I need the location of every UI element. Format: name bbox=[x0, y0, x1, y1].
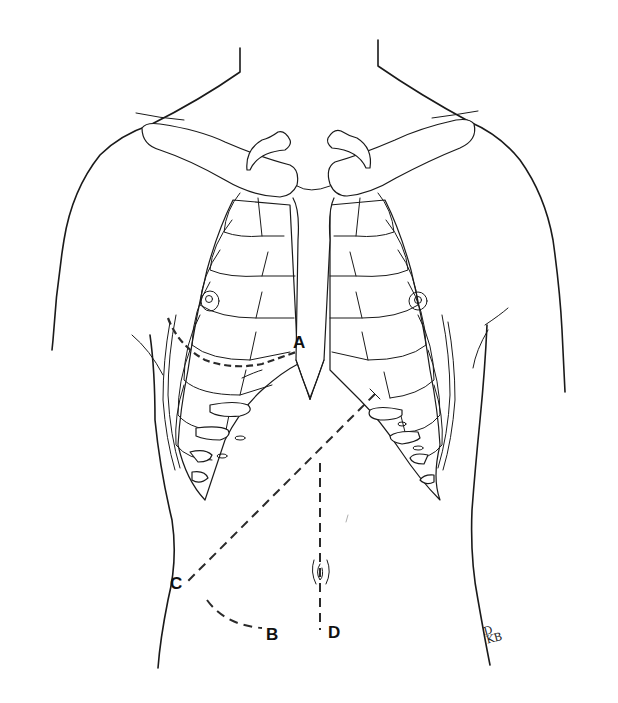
sternum bbox=[293, 198, 334, 400]
rib-cage-right bbox=[330, 193, 455, 500]
label-b: B bbox=[266, 626, 278, 643]
clavicles bbox=[136, 111, 478, 197]
anatomy-drawing bbox=[0, 0, 618, 703]
stray-mark bbox=[346, 515, 348, 522]
torso-illustration: A C B D D KB bbox=[0, 0, 618, 703]
rib-cage-left bbox=[163, 193, 298, 500]
label-c: C bbox=[170, 575, 182, 592]
incision-b-line bbox=[207, 600, 262, 628]
label-a: A bbox=[293, 334, 305, 351]
label-d: D bbox=[328, 624, 340, 641]
